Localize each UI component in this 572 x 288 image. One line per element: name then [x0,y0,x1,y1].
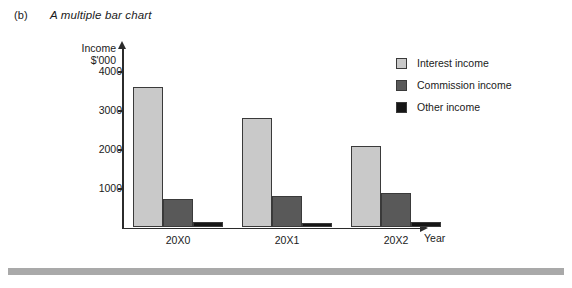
y-tick-label: 3000 [38,104,122,116]
bar [272,196,302,228]
legend-swatch-icon [396,102,407,113]
x-axis-line [122,228,422,230]
chart-legend: Interest incomeCommission incomeOther in… [396,52,512,118]
x-tick-label: 20X0 [166,234,191,246]
bar [351,146,381,227]
y-tick-mark [118,71,123,72]
bar [193,222,223,227]
bar [242,118,272,227]
bottom-divider [8,268,564,275]
x-axis-title: Year [424,232,445,244]
bar [133,87,163,227]
legend-label: Other income [417,101,480,113]
bar [163,199,193,228]
y-axis-title: Income $'000 [60,42,116,66]
bar [381,193,411,227]
bar [302,223,332,227]
bar-chart-plot: Income $'000 1000200030004000 20X020X120… [0,0,572,288]
figure-container: (b) A multiple bar chart Income $'000 10… [0,0,572,288]
y-axis-title-line1: Income [82,42,116,54]
y-tick-label: 1000 [38,182,122,194]
y-axis-line [122,48,124,229]
x-tick-label: 20X2 [384,234,409,246]
legend-swatch-icon [396,58,407,69]
y-axis-arrow-icon [118,41,126,49]
legend-item: Other income [396,96,512,118]
bar [411,222,441,228]
legend-item: Commission income [396,74,512,96]
y-tick-label: 4000 [38,65,122,77]
y-axis-title-line2: $'000 [60,54,116,66]
y-tick-mark [118,188,123,189]
y-tick-label: 2000 [38,143,122,155]
legend-label: Commission income [417,79,512,91]
x-tick-label: 20X1 [275,234,300,246]
y-tick-mark [118,149,123,150]
legend-swatch-icon [396,80,407,91]
legend-item: Interest income [396,52,512,74]
legend-label: Interest income [417,57,489,69]
y-tick-mark [118,110,123,111]
